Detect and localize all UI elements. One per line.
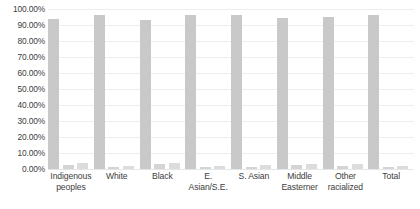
bar (77, 163, 88, 169)
y-axis-tick-label: 40.00% (17, 100, 45, 110)
y-axis-tick-label: 100.00% (13, 4, 45, 14)
x-axis-tick-label: Middle Easterner (277, 171, 323, 209)
y-axis-tick-label: 20.00% (17, 132, 45, 142)
y-axis-tick-label: 90.00% (17, 20, 45, 30)
bar-group (323, 9, 369, 169)
x-axis-tick-label: Black (140, 171, 186, 209)
y-axis-tick-label: 70.00% (17, 52, 45, 62)
bar (337, 166, 348, 169)
x-axis-tick-label: White (94, 171, 140, 209)
bar-chart: 100.00%90.00%80.00%70.00%60.00%50.00%40.… (0, 0, 420, 209)
plot-area (48, 9, 414, 169)
x-axis-tick-label: Indigenous peoples (48, 171, 94, 209)
y-axis-tick-label: 30.00% (17, 116, 45, 126)
bar-group (185, 9, 231, 169)
y-axis-tick-label: 60.00% (17, 68, 45, 78)
bar (277, 18, 288, 169)
bar (291, 165, 302, 169)
x-axis-tick-label: Total (368, 171, 414, 209)
bar (397, 166, 408, 169)
bar-group (94, 9, 140, 169)
bar (352, 164, 363, 169)
bar-group (140, 9, 186, 169)
gridline (48, 169, 414, 170)
bar-group (48, 9, 94, 169)
y-axis-tick-label: 80.00% (17, 36, 45, 46)
y-axis-tick-label: 0.00% (22, 164, 45, 174)
bar (383, 167, 394, 169)
y-axis: 100.00%90.00%80.00%70.00%60.00%50.00%40.… (0, 0, 48, 209)
bar (200, 167, 211, 169)
bar-group (277, 9, 323, 169)
bar (123, 166, 134, 169)
bar (323, 17, 334, 169)
bar (108, 167, 119, 169)
bar (169, 163, 180, 169)
bar-groups (48, 9, 414, 169)
bar (231, 15, 242, 169)
bar (246, 167, 257, 169)
bar (94, 15, 105, 169)
bar (63, 165, 74, 169)
x-axis: Indigenous peoplesWhiteBlackE. Asian/S.E… (48, 171, 414, 209)
bar (48, 19, 59, 169)
bar (306, 164, 317, 169)
y-axis-tick-label: 50.00% (17, 84, 45, 94)
x-axis-tick-label: S. Asian (231, 171, 277, 209)
x-axis-tick-label: E. Asian/S.E. (185, 171, 231, 209)
bar-group (231, 9, 277, 169)
bar (140, 20, 151, 169)
bar (154, 164, 165, 169)
bar (260, 165, 271, 169)
bar-group (368, 9, 414, 169)
y-axis-tick-label: 10.00% (17, 148, 45, 158)
bar (214, 166, 225, 169)
bar (185, 15, 196, 169)
x-axis-tick-label: Other racialized (323, 171, 369, 209)
bar (368, 15, 379, 169)
